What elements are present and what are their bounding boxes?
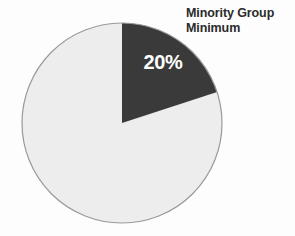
chart-annotation-line-1: Minority Group <box>186 6 292 21</box>
chart-annotation: Minority Group Minimum <box>186 6 292 36</box>
pie-chart-figure: 20% Minority Group Minimum <box>0 0 295 236</box>
chart-annotation-line-2: Minimum <box>186 21 292 36</box>
